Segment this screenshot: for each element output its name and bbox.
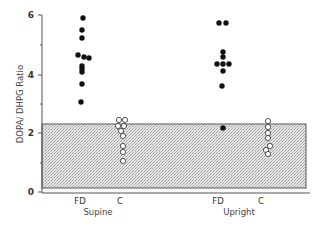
x-label-fd-supine: FD [74, 196, 86, 206]
series-fd-supine [75, 15, 91, 104]
x-axis: FD C FD C Supine Upright [42, 193, 310, 217]
group-label-upright: Upright [223, 207, 255, 217]
series-fd-upright [214, 20, 231, 130]
y-tick-2: 2 [28, 128, 34, 138]
y-tick-6: 6 [28, 10, 34, 20]
x-label-fd-upright: FD [212, 196, 224, 206]
x-label-c-supine: C [117, 196, 123, 206]
x-label-c-upright: C [258, 196, 264, 206]
group-label-supine: Supine [83, 207, 112, 217]
scatter-chart: 6 4 2 0 DOPA/ DHPG Ratio FD C FD C Supin… [0, 0, 322, 226]
y-axis: 6 4 2 0 DOPA/ DHPG Ratio [15, 10, 42, 197]
y-tick-4: 4 [28, 70, 34, 80]
y-tick-0: 0 [28, 187, 34, 197]
y-axis-title: DOPA/ DHPG Ratio [15, 65, 25, 143]
